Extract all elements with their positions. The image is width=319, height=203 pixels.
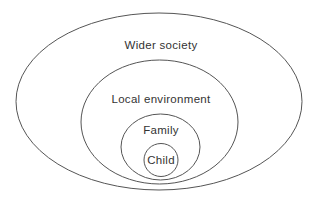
local-environment-label: Local environment <box>111 93 211 105</box>
nested-ellipses-diagram: Wider society Local environment Family C… <box>0 0 319 203</box>
family-label: Family <box>143 124 179 136</box>
child-label: Child <box>147 154 175 166</box>
wider-society-label: Wider society <box>125 39 198 51</box>
